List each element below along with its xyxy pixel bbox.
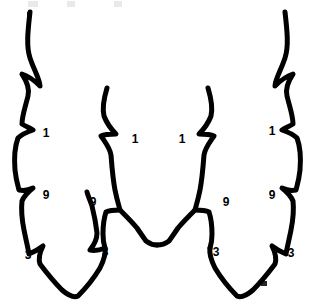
landmark-label-inner-right-3: 3 (213, 246, 220, 258)
figure-canvas: 193193193193 (0, 0, 315, 307)
edge-artifact-top-faint-3 (114, 1, 122, 7)
edge-artifact-bottom-right-mark (261, 281, 267, 286)
landmark-label-inner-left-1: 1 (132, 133, 139, 145)
landmark-label-inner-right-1: 1 (179, 133, 186, 145)
landmark-label-inner-right-9: 9 (223, 196, 230, 208)
landmark-label-outer-right-1: 1 (269, 125, 276, 137)
landmark-label-inner-left-3: 3 (102, 246, 109, 258)
edge-artifact-top-faint-2 (67, 1, 75, 7)
landmark-label-outer-left-1: 1 (43, 127, 50, 139)
landmark-label-outer-right-3: 3 (288, 247, 295, 259)
landmark-label-inner-left-9: 9 (90, 196, 97, 208)
edge-artifact-top-left-mark (27, 12, 31, 19)
center-bottom-right-path (157, 210, 195, 245)
center-bottom-left-path (120, 210, 157, 245)
outline-drawing (0, 0, 315, 307)
landmark-label-outer-right-9: 9 (269, 189, 276, 201)
inner-right-lobe-path (195, 88, 214, 248)
edge-artifact-top-faint-1 (28, 1, 38, 7)
inner-left-lobe-path (101, 88, 120, 248)
landmark-label-outer-left-9: 9 (43, 189, 50, 201)
landmark-label-outer-left-3: 3 (25, 249, 32, 261)
